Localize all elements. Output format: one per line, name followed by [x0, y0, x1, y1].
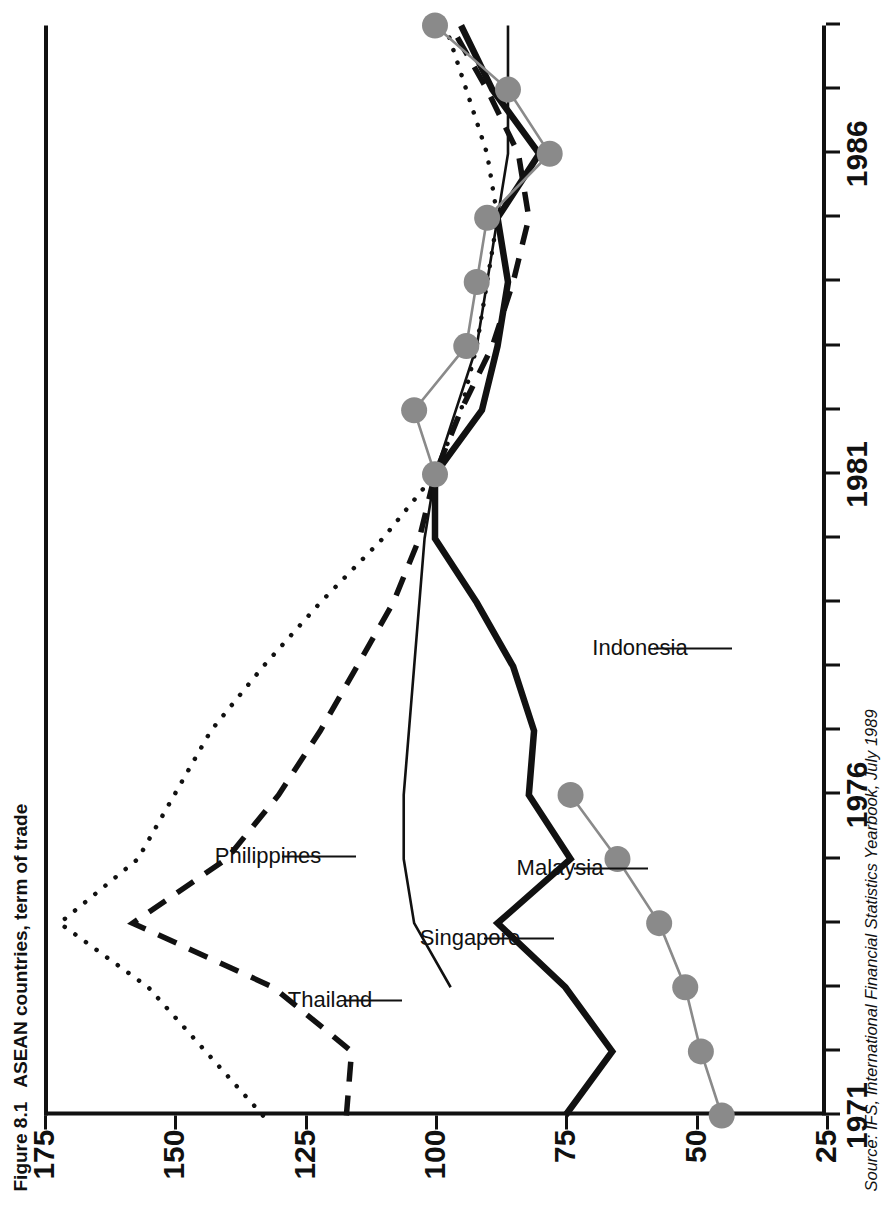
source-note: Source: IFS, International Financial Sta…	[862, 709, 881, 1191]
x-axis-tick	[826, 22, 840, 25]
y-axis-tick	[435, 1115, 438, 1129]
x-axis-tick	[826, 150, 840, 153]
leader-line-indonesia	[654, 647, 732, 649]
y-axis-label: 100	[418, 1129, 452, 1207]
y-axis-label: 25	[809, 1129, 843, 1207]
x-axis-tick	[826, 1112, 840, 1115]
data-point-indonesia	[464, 268, 490, 294]
x-axis-tick	[826, 214, 840, 217]
data-point-indonesia	[709, 1102, 735, 1128]
leader-line-singapore	[484, 937, 554, 939]
y-axis-tick	[305, 1115, 308, 1129]
plot-area: 1751501251007550251971197619811986	[44, 25, 826, 1115]
data-point-indonesia	[646, 910, 672, 936]
x-axis-tick	[826, 599, 840, 602]
y-axis-tick	[565, 1115, 568, 1129]
x-axis-tick	[826, 86, 840, 89]
x-axis-tick	[826, 471, 840, 474]
data-point-indonesia	[688, 1038, 714, 1064]
y-axis-label: 175	[27, 1129, 61, 1207]
rotated-figure: Figure 8.1ASEAN countries, term of trade…	[0, 0, 896, 1207]
y-axis-label: 125	[288, 1129, 322, 1207]
x-axis-tick	[826, 920, 840, 923]
data-point-indonesia	[672, 974, 698, 1000]
x-axis-tick	[826, 727, 840, 730]
chart-lines	[44, 25, 826, 1115]
x-axis-label: 1986	[840, 120, 874, 187]
data-point-indonesia	[422, 12, 448, 38]
y-axis-tick	[44, 1115, 47, 1129]
y-axis-tick	[696, 1115, 699, 1129]
y-axis-label: 150	[157, 1129, 191, 1207]
series-line-thailand	[133, 25, 529, 1115]
series-line-indonesia	[414, 25, 722, 1115]
data-point-indonesia	[558, 781, 584, 807]
figure-page: Figure 8.1ASEAN countries, term of trade…	[0, 0, 896, 1207]
x-axis-tick	[826, 535, 840, 538]
series-line-philippines	[60, 25, 498, 1115]
x-axis-tick	[826, 1048, 840, 1051]
series-line-malaysia	[435, 25, 612, 1115]
x-axis-tick	[826, 984, 840, 987]
x-axis-tick	[826, 343, 840, 346]
figure-caption: ASEAN countries, term of trade	[10, 803, 31, 1087]
y-axis-label: 75	[548, 1129, 582, 1207]
data-point-indonesia	[453, 333, 479, 359]
leader-line-malaysia	[574, 867, 648, 869]
x-axis-tick	[826, 856, 840, 859]
x-axis-tick	[826, 663, 840, 666]
leader-line-thailand	[344, 999, 402, 1001]
series-line-singapore	[404, 25, 508, 987]
data-point-indonesia	[537, 140, 563, 166]
x-axis-tick	[826, 278, 840, 281]
y-axis-tick	[826, 1115, 829, 1129]
x-axis-tick	[826, 791, 840, 794]
x-axis-tick	[826, 407, 840, 410]
leader-line-philippines	[282, 855, 356, 857]
y-axis-tick	[174, 1115, 177, 1129]
x-axis-label: 1981	[840, 440, 874, 507]
y-axis-label: 50	[679, 1129, 713, 1207]
